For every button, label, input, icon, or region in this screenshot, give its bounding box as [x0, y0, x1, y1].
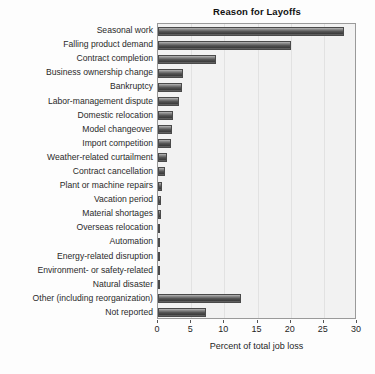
x-tick-mark — [157, 320, 158, 323]
x-tick-label: 0 — [154, 324, 159, 334]
x-tick-label: 30 — [351, 324, 361, 334]
bar — [158, 238, 160, 247]
category-label: Other (including reorganization) — [0, 293, 153, 303]
bar — [158, 69, 183, 78]
bar — [158, 111, 173, 120]
bar — [158, 139, 171, 148]
bar-row — [158, 24, 357, 38]
category-label: Environment- or safety-related — [0, 265, 153, 275]
bar-row — [158, 292, 357, 306]
bar-row — [158, 109, 357, 123]
category-label: Material shortages — [0, 208, 153, 218]
category-label: Import competition — [0, 138, 153, 148]
category-label: Automation — [0, 236, 153, 246]
category-label: Vacation period — [0, 194, 153, 204]
x-tick-mark — [323, 320, 324, 323]
category-label: Contract cancellation — [0, 166, 153, 176]
category-label: Falling product demand — [0, 39, 153, 49]
bar-series — [158, 24, 355, 318]
bar-row — [158, 179, 357, 193]
bar-row — [158, 207, 357, 221]
bar-row — [158, 250, 357, 264]
plot-area — [157, 23, 356, 319]
category-label: Business ownership change — [0, 67, 153, 77]
x-tick-label: 15 — [251, 324, 261, 334]
category-label: Domestic relocation — [0, 110, 153, 120]
chart-title: Reason for Layoffs — [157, 6, 357, 17]
bar — [158, 83, 182, 92]
bar — [158, 55, 216, 64]
bar — [158, 224, 160, 233]
category-label: Contract completion — [0, 53, 153, 63]
bar-row — [158, 137, 357, 151]
category-label: Plant or machine repairs — [0, 180, 153, 190]
category-label: Seasonal work — [0, 25, 153, 35]
bar-row — [158, 151, 357, 165]
x-tick-label: 5 — [188, 324, 193, 334]
x-tick-mark — [356, 320, 357, 323]
bar — [158, 97, 179, 106]
category-axis-labels: Seasonal workFalling product demandContr… — [0, 23, 153, 319]
category-label: Energy-related disruption — [0, 251, 153, 261]
bar-row — [158, 264, 357, 278]
x-tick-mark — [190, 320, 191, 323]
bar — [158, 266, 160, 275]
x-tick-mark — [257, 320, 258, 323]
x-axis-ticks: 051015202530 — [157, 320, 356, 336]
bar-row — [158, 221, 357, 235]
category-label: Labor-management dispute — [0, 96, 153, 106]
bar-row — [158, 38, 357, 52]
bar — [158, 280, 160, 289]
bar — [158, 252, 160, 261]
x-axis-title: Percent of total job loss — [157, 341, 356, 351]
bar-row — [158, 165, 357, 179]
category-label: Weather-related curtailment — [0, 152, 153, 162]
bar — [158, 27, 344, 36]
bar-row — [158, 80, 357, 94]
x-tick-label: 20 — [285, 324, 295, 334]
bar — [158, 294, 241, 303]
bar — [158, 125, 172, 134]
bar — [158, 41, 291, 50]
category-label: Not reported — [0, 307, 153, 317]
bar-row — [158, 306, 357, 320]
bar-row — [158, 193, 357, 207]
bar — [158, 153, 167, 162]
bar-row — [158, 66, 357, 80]
bar-row — [158, 123, 357, 137]
bar — [158, 210, 161, 219]
bar-row — [158, 94, 357, 108]
bar — [158, 182, 162, 191]
category-label: Bankruptcy — [0, 81, 153, 91]
x-tick-mark — [290, 320, 291, 323]
category-label: Natural disaster — [0, 279, 153, 289]
bar-row — [158, 278, 357, 292]
x-tick-label: 10 — [218, 324, 228, 334]
bar — [158, 196, 161, 205]
category-label: Overseas relocation — [0, 222, 153, 232]
category-label: Model changeover — [0, 124, 153, 134]
bar-row — [158, 235, 357, 249]
x-tick-label: 25 — [318, 324, 328, 334]
chart-figure: Reason for Layoffs Seasonal workFalling … — [0, 0, 375, 374]
bar-row — [158, 52, 357, 66]
bar — [158, 308, 206, 317]
x-tick-mark — [223, 320, 224, 323]
bar — [158, 167, 165, 176]
